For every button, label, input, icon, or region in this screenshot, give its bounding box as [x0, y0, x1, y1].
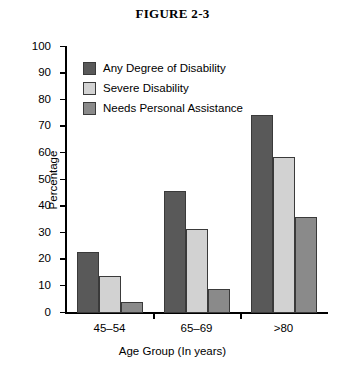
- x-axis-category-label: 45–54: [94, 322, 126, 334]
- legend-swatch: [83, 62, 96, 75]
- y-axis-tick: 60: [60, 152, 66, 154]
- legend-item: Needs Personal Assistance: [83, 98, 243, 118]
- bar: [186, 229, 208, 313]
- y-axis-tick-label: 50: [38, 173, 51, 185]
- y-axis-tick: 30: [60, 232, 66, 234]
- y-axis-tick-label: 0: [45, 306, 51, 318]
- figure-container: FIGURE 2-3 Percentage 010203040506070809…: [0, 0, 345, 373]
- bar: [121, 302, 143, 313]
- y-axis-tick-label: 90: [38, 66, 51, 78]
- x-axis-tick: [153, 313, 155, 319]
- legend-item: Severe Disability: [83, 78, 243, 98]
- y-axis-tick: 80: [60, 99, 66, 101]
- y-axis-tick-label: 70: [38, 119, 51, 131]
- legend-label: Needs Personal Assistance: [103, 102, 243, 114]
- y-axis-tick: 70: [60, 125, 66, 127]
- legend-swatch: [83, 82, 96, 95]
- y-axis-tick: 10: [60, 285, 66, 287]
- bar: [295, 217, 317, 313]
- legend-label: Severe Disability: [103, 82, 189, 94]
- y-axis-tick: 0: [60, 312, 66, 314]
- y-axis-tick: 20: [60, 258, 66, 260]
- legend-swatch: [83, 102, 96, 115]
- y-axis-tick: 40: [60, 205, 66, 207]
- y-axis-tick-label: 10: [38, 279, 51, 291]
- legend-label: Any Degree of Disability: [103, 62, 226, 74]
- x-axis-label: Age Group (In years): [0, 345, 345, 357]
- bar: [208, 289, 230, 313]
- y-axis-tick-label: 20: [38, 252, 51, 264]
- y-axis-tick-label: 30: [38, 226, 51, 238]
- bar: [251, 115, 273, 313]
- legend-item: Any Degree of Disability: [83, 58, 243, 78]
- y-axis-tick-label: 60: [38, 146, 51, 158]
- bar: [164, 191, 186, 313]
- x-axis-tick: [240, 313, 242, 319]
- y-axis-tick-label: 40: [38, 199, 51, 211]
- bar: [77, 252, 99, 313]
- y-axis-tick: 100: [60, 46, 66, 48]
- y-axis-tick-label: 100: [32, 40, 51, 52]
- bar: [273, 157, 295, 313]
- x-axis-category-label: 65–69: [181, 322, 213, 334]
- bar: [99, 276, 121, 313]
- y-axis-tick: 50: [60, 179, 66, 181]
- x-axis-category-label: >80: [274, 322, 294, 334]
- y-axis-tick-label: 80: [38, 93, 51, 105]
- y-axis-tick: 90: [60, 72, 66, 74]
- chart-legend: Any Degree of DisabilitySevere Disabilit…: [83, 58, 243, 118]
- figure-title: FIGURE 2-3: [0, 6, 345, 22]
